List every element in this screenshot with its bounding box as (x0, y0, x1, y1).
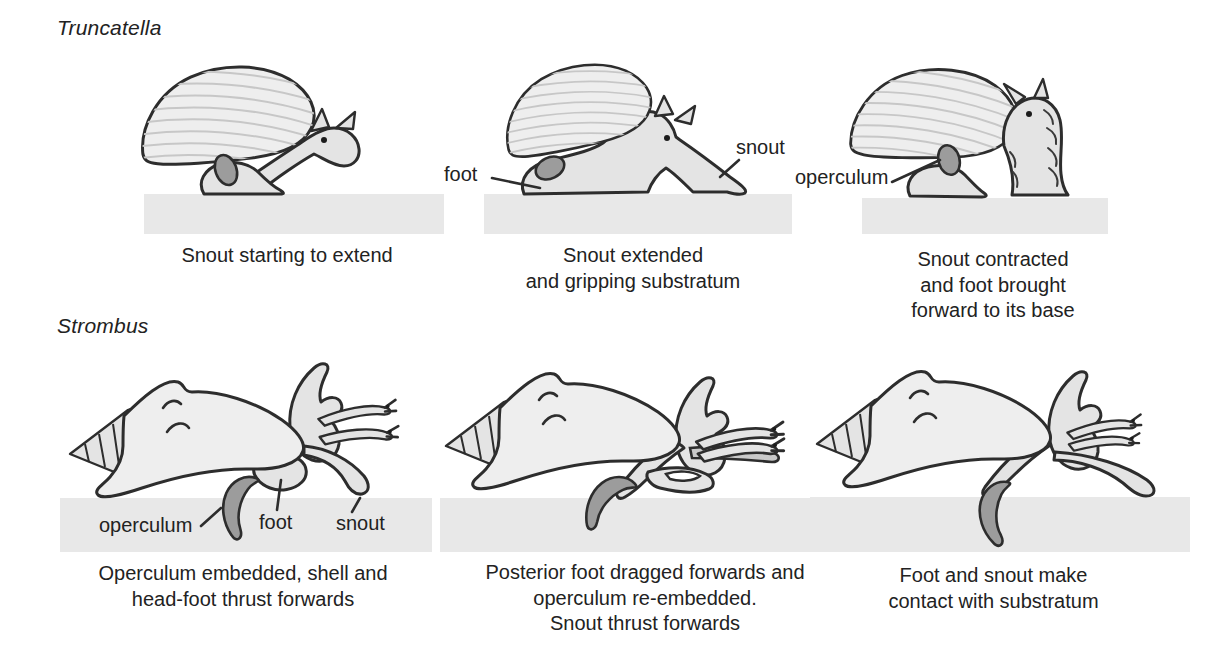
neck (676, 378, 728, 475)
species-label-truncatella: Truncatella (57, 16, 162, 40)
label-operculum: operculum (795, 166, 888, 189)
caption-strombus-stage3: Foot and snout make contact with substra… (806, 563, 1181, 614)
caption-truncatella-stage2: Snout extended and gripping substratum (473, 243, 793, 294)
leader-line-snout (720, 160, 739, 177)
foot-gap (666, 472, 700, 481)
substrate (862, 198, 1108, 234)
eye-dot (321, 137, 327, 143)
label-foot: foot (444, 163, 477, 186)
caption-strombus-stage2: Posterior foot dragged forwards and oper… (450, 560, 840, 637)
eye-dot (664, 135, 670, 141)
label-foot: foot (259, 511, 292, 534)
substrate (440, 498, 830, 552)
truncatella-stage3-illustration (848, 52, 1188, 242)
tentacle (675, 106, 695, 124)
substrate (144, 194, 444, 234)
contracted-snout (1003, 79, 1068, 195)
truncatella-stage1-illustration (112, 52, 452, 242)
gastropod-locomotion-figure: Truncatella Snout starting to extend foo… (0, 0, 1228, 659)
strombus-stage3-illustration (805, 348, 1195, 583)
label-snout: snout (736, 136, 785, 159)
label-operculum: operculum (99, 514, 192, 537)
caption-strombus-stage1: Operculum embedded, shell and head-foot … (63, 561, 423, 612)
tentacle (1034, 79, 1048, 98)
substrate (484, 194, 792, 234)
caption-truncatella-stage3: Snout contracted and foot brought forwar… (838, 247, 1148, 324)
tentacle (336, 112, 355, 129)
caption-truncatella-stage1: Snout starting to extend (127, 243, 447, 269)
species-label-strombus: Strombus (57, 314, 148, 338)
strombus-stage2-illustration (438, 348, 830, 583)
tentacle (655, 96, 673, 116)
eye-dot (1026, 111, 1032, 117)
strombus-stage1-illustration (50, 348, 435, 583)
label-snout: snout (336, 512, 385, 535)
snout (1054, 452, 1154, 496)
